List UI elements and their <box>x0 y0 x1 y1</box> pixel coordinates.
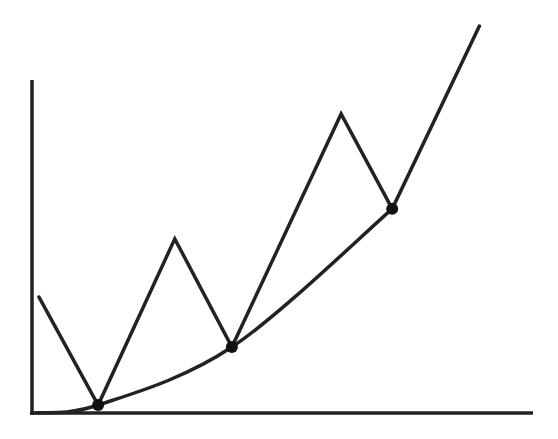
diagram <box>0 0 558 439</box>
contact-points <box>92 203 398 411</box>
zigzag-line <box>39 26 479 405</box>
contact-point-2 <box>226 341 238 353</box>
contact-point-1 <box>92 399 104 411</box>
contact-point-3 <box>386 203 398 215</box>
